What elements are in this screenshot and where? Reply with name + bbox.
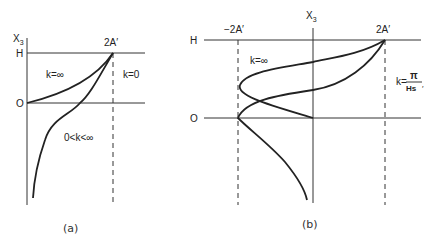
curve-k-intermediate [33,53,113,198]
label-k-infinity: k=∞ [46,69,64,80]
panel-b: X3 H O −2A′ 2A′ k=∞ k= π Hs ′ (b) [190,10,424,231]
pos-2a-label: 2A′ [376,24,390,35]
label-k-intermediate: 0<k<∞ [64,132,93,143]
o-label: O [190,113,198,124]
label-k-zero: k=0 [123,69,140,80]
apex-label: 2A′ [104,37,118,48]
o-label: O [16,98,24,109]
figure: X3 H O 2A′ k=∞ k=0 0<k<∞ (a) X3 H O −2A′… [0,0,434,243]
h-label: H [16,48,23,59]
label-k-infinity: k=∞ [250,55,268,66]
svg-text:′: ′ [422,84,424,93]
caption-b: (b) [302,218,318,231]
label-k-fraction: k= π Hs ′ [396,70,424,93]
h-label: H [190,35,197,46]
panel-a: X3 H O 2A′ k=∞ k=0 0<k<∞ (a) [13,33,145,235]
curve-k-infinity [27,53,113,103]
x3-axis-label: X3 [306,10,317,23]
caption-a: (a) [63,222,78,235]
svg-text:π: π [410,70,418,81]
x3-axis-label: X3 [13,33,24,46]
svg-text:Hs: Hs [406,84,417,93]
curve-k-infinity [240,40,385,118]
neg-2a-label: −2A′ [224,24,244,35]
